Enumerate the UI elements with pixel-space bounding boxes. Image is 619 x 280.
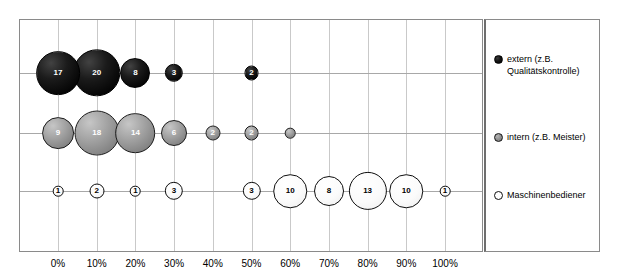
bubble-intern-60% — [285, 128, 296, 139]
intern-bubble-icon — [494, 133, 503, 142]
x-axis-tick-90%: 90% — [396, 258, 416, 269]
x-axis-tick-30%: 30% — [164, 258, 184, 269]
bubble-value-label: 8 — [133, 69, 137, 77]
bubble-chart-page: 1720832918146221213310813101 extern (z.B… — [0, 0, 619, 280]
x-axis-tick-60%: 60% — [280, 258, 300, 269]
bubble-value-label: 14 — [131, 129, 140, 137]
x-axis-tick-50%: 50% — [241, 258, 261, 269]
bubble-maschinenbediener-80%: 13 — [348, 172, 386, 210]
bubble-maschinenbediener-20%: 1 — [130, 186, 141, 197]
bubble-value-label: 1 — [133, 187, 137, 195]
bubble-value-label: 2 — [211, 129, 215, 137]
bubble-extern-30%: 3 — [165, 64, 183, 82]
bubble-intern-20%: 14 — [116, 113, 156, 153]
bubble-maschinenbediener-0%: 1 — [53, 186, 64, 197]
bubble-maschinenbediener-60%: 10 — [273, 174, 307, 208]
bubble-value-label: 6 — [172, 129, 176, 137]
plot-frame: 1720832918146221213310813101 — [19, 19, 483, 252]
bubble-extern-50%: 2 — [244, 66, 259, 81]
extern-bubble-icon — [494, 55, 503, 64]
chart-legend: extern (z.B. Qualitätskontrolle)intern (… — [484, 19, 600, 252]
bubble-value-label: 1 — [443, 187, 447, 195]
legend-item-1[interactable]: intern (z.B. Meister) — [494, 132, 595, 144]
bubble-value-label: 10 — [402, 187, 411, 195]
x-axis-tick-20%: 20% — [125, 258, 145, 269]
x-axis-tick-10%: 10% — [87, 258, 107, 269]
bubble-maschinenbediener-50%: 3 — [242, 182, 260, 200]
bubble-maschinenbediener-90%: 10 — [390, 174, 424, 208]
bubble-intern-40%: 2 — [205, 126, 220, 141]
legend-item-label: extern (z.B. Qualitätskontrolle) — [507, 54, 595, 77]
bubble-value-label: 13 — [363, 187, 372, 195]
bubble-value-label: 8 — [327, 187, 331, 195]
bubble-value-label: 2 — [249, 129, 253, 137]
bubble-intern-10%: 18 — [74, 111, 119, 156]
maschinenbediener-bubble-icon — [494, 191, 503, 200]
bubble-value-label: 10 — [286, 187, 295, 195]
x-axis-tick-100%: 100% — [432, 258, 458, 269]
x-axis-tick-0%: 0% — [51, 258, 65, 269]
bubble-extern-0%: 17 — [36, 51, 80, 95]
bubble-maschinenbediener-30%: 3 — [165, 182, 183, 200]
vertical-gridline-90% — [406, 20, 407, 251]
bubble-value-label: 20 — [92, 69, 101, 77]
bubble-intern-50%: 2 — [244, 126, 259, 141]
plot-area: 1720832918146221213310813101 — [20, 20, 482, 251]
vertical-gridline-70% — [329, 20, 330, 251]
bubble-value-label: 2 — [249, 69, 253, 77]
legend-item-2[interactable]: Maschinenbediener — [494, 190, 595, 202]
vertical-gridline-80% — [368, 20, 369, 251]
bubble-value-label: 3 — [249, 187, 253, 195]
legend-item-label: intern (z.B. Meister) — [507, 132, 586, 144]
x-axis-tick-70%: 70% — [319, 258, 339, 269]
x-axis-tick-40%: 40% — [203, 258, 223, 269]
bubble-intern-30%: 6 — [161, 120, 187, 146]
bubble-value-label: 9 — [56, 129, 60, 137]
bubble-value-label: 17 — [54, 69, 63, 77]
x-axis: 0%10%20%30%40%50%60%70%80%90%100% — [19, 252, 483, 278]
bubble-maschinenbediener-70%: 8 — [314, 176, 344, 206]
bubble-maschinenbediener-10%: 2 — [89, 184, 104, 199]
bubble-value-label: 3 — [172, 187, 176, 195]
bubble-value-label: 3 — [172, 69, 176, 77]
vertical-gridline-100% — [445, 20, 446, 251]
bubble-value-label: 2 — [94, 187, 98, 195]
bubble-extern-20%: 8 — [120, 58, 150, 88]
bubble-maschinenbediener-100%: 1 — [440, 186, 451, 197]
bubble-extern-10%: 20 — [73, 49, 120, 96]
bubble-value-label: 1 — [56, 187, 60, 195]
legend-item-label: Maschinenbediener — [507, 190, 586, 202]
bubble-value-label: 18 — [92, 129, 101, 137]
legend-item-0[interactable]: extern (z.B. Qualitätskontrolle) — [494, 54, 595, 77]
bubble-intern-0%: 9 — [42, 117, 74, 149]
x-axis-tick-80%: 80% — [358, 258, 378, 269]
